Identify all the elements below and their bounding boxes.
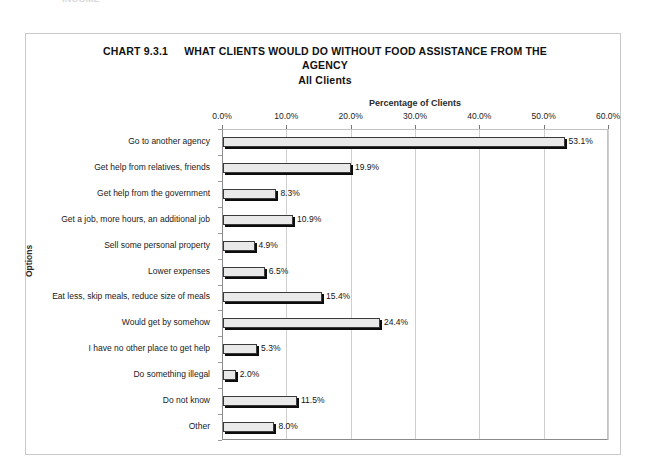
category-label: Eat less, skip meals, reduce size of mea…: [52, 291, 210, 301]
y-axis-tick: [218, 440, 222, 441]
chart-page: INCOME CHART 9.3.1WHAT CLIENTS WOULD DO …: [0, 0, 645, 473]
x-axis-tick-label: 0.0%: [192, 111, 252, 121]
category-label: Do not know: [163, 395, 210, 405]
category-label: Sell some personal property: [104, 240, 210, 250]
chart-subtitle: All Clients: [60, 73, 590, 87]
x-axis-tick-label: 60.0%: [578, 111, 638, 121]
scan-text-fragment: INCOME: [62, 0, 100, 4]
category-label: Would get by somehow: [122, 317, 210, 327]
chart-title-line-2: AGENCY: [60, 58, 590, 72]
gridline: [608, 129, 609, 440]
plot-border: [222, 129, 608, 440]
category-label: Lower expenses: [148, 266, 210, 276]
category-label: Get a job, more hours, an additional job: [61, 214, 210, 224]
category-label: Other: [189, 421, 210, 431]
x-axis-title: Percentage of Clients: [325, 98, 505, 108]
x-axis-tick-label: 20.0%: [321, 111, 381, 121]
plot-area: 53.1%19.9%8.3%10.9%4.9%6.5%15.4%24.4%5.3…: [222, 129, 608, 440]
category-label: I have no other place to get help: [89, 343, 210, 353]
x-axis-tick-label: 50.0%: [514, 111, 574, 121]
chart-number-label: CHART 9.3.1: [103, 44, 168, 58]
category-label: Get help from the government: [97, 188, 210, 198]
category-label-column: Go to another agencyGet help from relati…: [0, 129, 216, 440]
chart-title-line-1: CHART 9.3.1WHAT CLIENTS WOULD DO WITHOUT…: [60, 44, 590, 58]
chart-title-block: CHART 9.3.1WHAT CLIENTS WOULD DO WITHOUT…: [60, 44, 590, 87]
x-axis-tick-label: 40.0%: [449, 111, 509, 121]
category-label: Get help from relatives, friends: [94, 162, 210, 172]
x-axis-tick-label: 10.0%: [256, 111, 316, 121]
category-label: Go to another agency: [128, 136, 210, 146]
category-label: Do something illegal: [133, 369, 210, 379]
x-axis-tick-label: 30.0%: [385, 111, 445, 121]
x-axis-tick: [608, 125, 609, 129]
chart-title-main: WHAT CLIENTS WOULD DO WITHOUT FOOD ASSIS…: [184, 45, 547, 57]
